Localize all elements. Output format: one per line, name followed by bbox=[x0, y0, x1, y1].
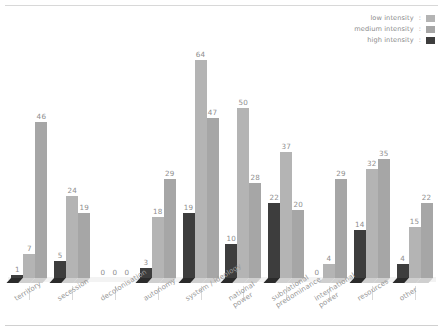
bar-slot: 19 bbox=[183, 20, 195, 278]
bar[interactable] bbox=[207, 118, 219, 278]
bar-value-label: 19 bbox=[184, 203, 194, 212]
x-axis-label: territory bbox=[13, 280, 43, 303]
bar[interactable] bbox=[280, 152, 292, 278]
bar[interactable] bbox=[397, 264, 409, 278]
bar-slot: 3 bbox=[140, 20, 152, 278]
bar[interactable] bbox=[164, 179, 176, 278]
bar-value-label: 18 bbox=[153, 207, 163, 216]
bar-slot: 20 bbox=[292, 20, 304, 278]
bar-value-label: 0 bbox=[125, 268, 130, 277]
bar-value-label: 20 bbox=[293, 200, 303, 209]
bar-slot: 47 bbox=[207, 20, 219, 278]
bar[interactable] bbox=[366, 169, 378, 278]
bar-slot: 7 bbox=[23, 20, 35, 278]
bar-group: 31829 bbox=[136, 20, 179, 278]
bar-chart: low intensity:medium intensity:high inte… bbox=[0, 0, 443, 334]
bar-slot: 35 bbox=[378, 20, 390, 278]
bar-slot: 64 bbox=[195, 20, 207, 278]
x-axis-label-line: other bbox=[398, 286, 419, 303]
bar[interactable] bbox=[354, 230, 366, 278]
bar-slot: 32 bbox=[366, 20, 378, 278]
bar-slot: 46 bbox=[35, 20, 47, 278]
bar-base-shadow bbox=[416, 278, 433, 283]
bar-group: 143235 bbox=[350, 20, 393, 278]
bar-value-label: 35 bbox=[379, 149, 389, 158]
bar-value-label: 0 bbox=[101, 268, 106, 277]
bar-slot: 14 bbox=[354, 20, 366, 278]
bar-slot: 4 bbox=[323, 20, 335, 278]
bar-group: 105028 bbox=[222, 20, 265, 278]
x-axis-label-line: territory bbox=[13, 280, 43, 303]
bar-value-label: 5 bbox=[58, 251, 63, 260]
bar-slot: 22 bbox=[268, 20, 280, 278]
bar-slot: 0 bbox=[311, 20, 323, 278]
bar[interactable] bbox=[268, 203, 280, 278]
bar[interactable] bbox=[335, 179, 347, 278]
bar-value-label: 32 bbox=[367, 159, 377, 168]
bar-value-label: 1 bbox=[15, 265, 20, 274]
bar-value-label: 22 bbox=[422, 193, 432, 202]
bar-slot: 0 bbox=[97, 20, 109, 278]
bar-value-label: 3 bbox=[143, 258, 148, 267]
bar[interactable] bbox=[195, 60, 207, 278]
bar[interactable] bbox=[323, 264, 335, 278]
bar-value-label: 37 bbox=[281, 142, 291, 151]
bar-value-label: 4 bbox=[400, 254, 405, 263]
bar[interactable] bbox=[183, 213, 195, 278]
bar-value-label: 14 bbox=[355, 220, 365, 229]
bar-slot: 37 bbox=[280, 20, 292, 278]
bar-group: 000 bbox=[94, 20, 137, 278]
bar-slot: 1 bbox=[11, 20, 23, 278]
bar-value-label: 46 bbox=[37, 112, 47, 121]
bar-slot: 29 bbox=[164, 20, 176, 278]
bar-slot: 4 bbox=[397, 20, 409, 278]
bar-slot: 22 bbox=[421, 20, 433, 278]
bar[interactable] bbox=[292, 210, 304, 278]
bar-slot: 15 bbox=[409, 20, 421, 278]
x-axis-label: other bbox=[398, 286, 419, 303]
bar-group: 41522 bbox=[393, 20, 436, 278]
bar-slot: 0 bbox=[121, 20, 133, 278]
bar-value-label: 19 bbox=[79, 203, 89, 212]
bar-group: 1746 bbox=[8, 20, 51, 278]
bar[interactable] bbox=[54, 261, 66, 278]
bar[interactable] bbox=[237, 108, 249, 278]
bar-slot: 19 bbox=[78, 20, 90, 278]
bar-group: 196447 bbox=[179, 20, 222, 278]
bar[interactable] bbox=[249, 183, 261, 278]
bar-group: 223720 bbox=[265, 20, 308, 278]
bar-value-label: 10 bbox=[227, 234, 237, 243]
bar-slot: 24 bbox=[66, 20, 78, 278]
bar-value-label: 50 bbox=[239, 98, 249, 107]
bar-value-label: 29 bbox=[336, 169, 346, 178]
bar-value-label: 4 bbox=[327, 254, 332, 263]
bar-group: 0429 bbox=[308, 20, 351, 278]
bar[interactable] bbox=[409, 227, 421, 278]
x-axis-label: nationalpower bbox=[227, 280, 261, 310]
bar-slot: 10 bbox=[225, 20, 237, 278]
plot-area: 1746524190003182919644710502822372004291… bbox=[0, 0, 443, 334]
bar[interactable] bbox=[421, 203, 433, 278]
bar-group: 52419 bbox=[51, 20, 94, 278]
bar[interactable] bbox=[152, 217, 164, 278]
bar-value-label: 0 bbox=[113, 268, 118, 277]
bottom-divider bbox=[5, 325, 438, 326]
bar[interactable] bbox=[23, 254, 35, 278]
bar[interactable] bbox=[35, 122, 47, 278]
bar-slot: 18 bbox=[152, 20, 164, 278]
bar-value-label: 47 bbox=[208, 108, 218, 117]
bar-value-label: 28 bbox=[251, 173, 261, 182]
x-axis-labels: territorysecessiondecolonisationautonomy… bbox=[8, 284, 436, 330]
bar[interactable] bbox=[78, 213, 90, 278]
bar-value-label: 22 bbox=[269, 193, 279, 202]
bar-slot: 0 bbox=[109, 20, 121, 278]
bar[interactable] bbox=[66, 196, 78, 278]
bar-value-label: 29 bbox=[165, 169, 175, 178]
bar-slot: 5 bbox=[54, 20, 66, 278]
bar-groups: 1746524190003182919644710502822372004291… bbox=[8, 20, 436, 278]
bar[interactable] bbox=[378, 159, 390, 278]
bar-value-label: 64 bbox=[196, 50, 206, 59]
bar-value-label: 7 bbox=[27, 244, 32, 253]
bar-slot: 29 bbox=[335, 20, 347, 278]
bar-slot: 28 bbox=[249, 20, 261, 278]
